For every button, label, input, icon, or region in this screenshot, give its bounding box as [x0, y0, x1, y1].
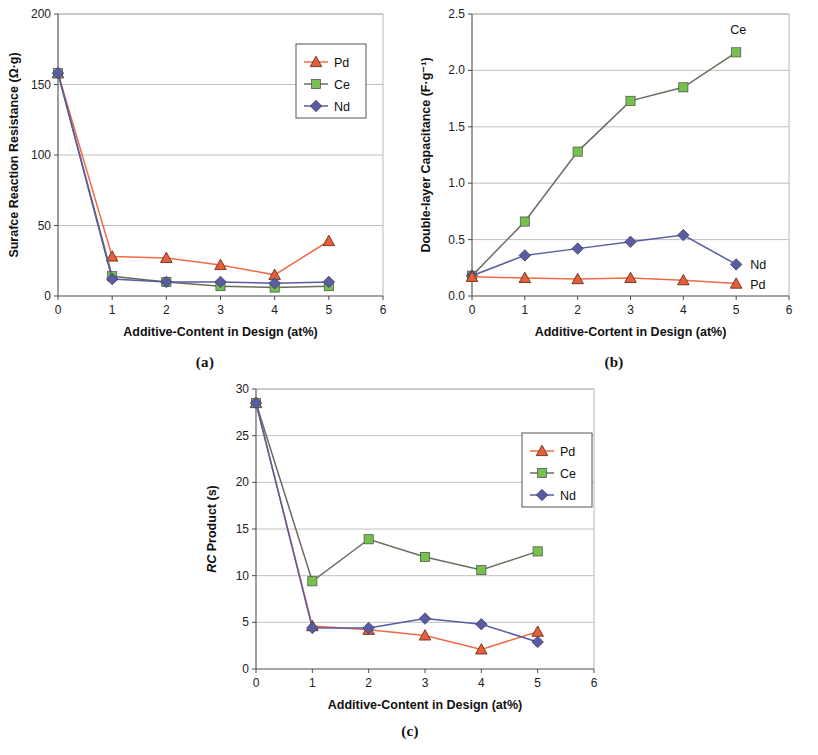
y-tick-label: 1.0	[448, 176, 465, 190]
y-tick-label: 200	[31, 7, 51, 21]
series-line	[256, 403, 538, 642]
x-axis-ticks: 0123456	[55, 296, 387, 317]
x-axis-ticks: 0123456	[253, 669, 598, 690]
y-tick-label: 15	[236, 522, 250, 536]
y-axis-ticks: 051015202530	[236, 382, 256, 676]
x-tick-label: 3	[422, 676, 429, 690]
x-tick-label: 2	[574, 303, 581, 317]
data-point-nd	[476, 618, 488, 630]
x-tick-label: 1	[521, 303, 528, 317]
data-point-ce	[520, 217, 529, 226]
y-tick-label: 0	[242, 662, 249, 676]
x-tick-label: 4	[478, 676, 485, 690]
x-axis-ticks: 0123456	[469, 296, 793, 317]
x-tick-label: 2	[163, 303, 170, 317]
chart-b-svg: 0.00.51.01.52.02.50123456Additive-Corten…	[410, 0, 815, 358]
x-tick-label: 0	[55, 303, 62, 317]
y-axis-title: Surafce Reaction Resistance (Ω·g)	[7, 52, 21, 257]
legend-label: Ce	[334, 78, 350, 92]
y-tick-label: 0.5	[448, 233, 465, 247]
series-inline-label-ce: Ce	[730, 23, 746, 37]
y-axis-ticks: 0.00.51.01.52.02.5	[448, 7, 472, 303]
legend-swatch-marker-ce	[311, 79, 320, 88]
x-tick-label: 0	[469, 303, 476, 317]
x-tick-label: 4	[271, 303, 278, 317]
series-line	[256, 403, 538, 649]
x-tick-label: 0	[253, 676, 260, 690]
x-tick-label: 5	[534, 676, 541, 690]
chart-panel-b: 0.00.51.01.52.02.50123456Additive-Corten…	[410, 0, 818, 385]
data-point-ce	[626, 96, 635, 105]
y-tick-label: 30	[236, 382, 250, 396]
series-line	[472, 235, 736, 276]
y-tick-label: 150	[31, 78, 51, 92]
legend-swatch-marker-ce	[537, 468, 546, 477]
x-tick-label: 6	[786, 303, 793, 317]
data-point-ce	[364, 535, 373, 544]
data-point-ce	[308, 577, 317, 586]
legend-box	[296, 44, 366, 118]
data-point-ce	[420, 552, 429, 561]
x-tick-label: 4	[680, 303, 687, 317]
series-pd: Pd	[466, 271, 765, 292]
figure-container: 0501001502000123456Additive-Content in D…	[0, 0, 818, 755]
y-tick-label: 5	[242, 615, 249, 629]
y-tick-label: 25	[236, 429, 250, 443]
y-tick-label: 10	[236, 569, 250, 583]
data-point-nd	[678, 229, 690, 241]
x-axis-title: Additive-Content in Design (at%)	[328, 698, 522, 712]
data-point-nd	[519, 250, 531, 262]
series-line	[58, 73, 329, 287]
x-tick-label: 1	[109, 303, 116, 317]
x-tick-label: 2	[365, 676, 372, 690]
legend-label: Ce	[560, 467, 576, 481]
series-line	[58, 73, 329, 275]
y-tick-label: 0.0	[448, 289, 465, 303]
series-ce	[53, 69, 333, 293]
legend-label: Nd	[334, 100, 350, 114]
gridlines	[472, 14, 789, 240]
legend-label: Pd	[334, 56, 349, 70]
x-tick-label: 5	[325, 303, 332, 317]
x-tick-label: 6	[591, 676, 598, 690]
series-line	[472, 277, 736, 284]
series-inline-label-pd: Pd	[750, 278, 765, 292]
legend-box	[522, 433, 592, 507]
y-tick-label: 20	[236, 475, 250, 489]
legend[interactable]: PdCeNd	[522, 433, 592, 507]
x-axis-title: Additive-Content in Design (at%)	[123, 325, 317, 339]
chart-c-plot: 0510152025300123456Additive-Content in D…	[200, 375, 620, 727]
chart-panel-c: 0510152025300123456Additive-Content in D…	[200, 375, 620, 755]
series-line	[58, 73, 329, 283]
legend[interactable]: PdCeNd	[296, 44, 366, 118]
legend-label: Pd	[560, 445, 575, 459]
chart-panel-a: 0501001502000123456Additive-Content in D…	[0, 0, 410, 385]
series-line	[256, 403, 538, 581]
data-point-ce	[573, 147, 582, 156]
data-point-nd	[625, 236, 637, 248]
data-point-nd	[307, 622, 319, 634]
legend-label: Nd	[560, 489, 576, 503]
x-tick-label: 3	[217, 303, 224, 317]
y-tick-label: 2.0	[448, 63, 465, 77]
y-axis-title: Double-layer Capacitance (F·g⁻¹)	[419, 57, 433, 252]
x-tick-label: 5	[733, 303, 740, 317]
series-nd	[52, 67, 334, 289]
chart-a-caption: (a)	[0, 354, 410, 371]
data-point-ce	[477, 565, 486, 574]
x-tick-label: 6	[380, 303, 387, 317]
x-axis-title: Additive-Cortent in Design (at%)	[535, 325, 727, 339]
x-tick-label: 1	[309, 676, 316, 690]
data-point-pd	[323, 235, 335, 245]
data-point-pd	[532, 626, 544, 636]
x-tick-label: 3	[627, 303, 634, 317]
data-point-nd	[572, 243, 584, 255]
y-axis-title: RC Product (s)	[205, 485, 219, 573]
y-tick-label: 100	[31, 148, 51, 162]
series-nd: Nd	[466, 229, 766, 281]
series-ce: Ce	[467, 23, 746, 280]
y-axis-ticks: 050100150200	[31, 7, 58, 303]
y-tick-label: 50	[38, 219, 52, 233]
data-point-ce	[732, 48, 741, 57]
chart-a-svg: 0501001502000123456Additive-Content in D…	[0, 0, 405, 358]
